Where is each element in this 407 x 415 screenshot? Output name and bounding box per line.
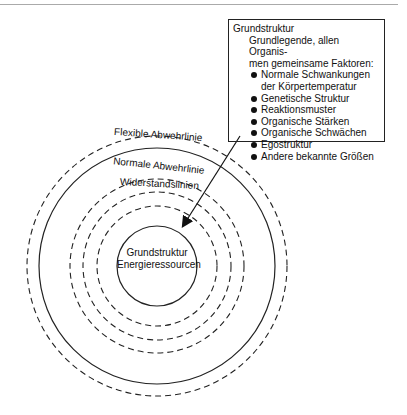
list-item: Andere bekannte Größen bbox=[251, 151, 380, 163]
list-item: Organische Schwächen bbox=[251, 127, 380, 139]
list-item: Reaktionsmuster bbox=[251, 104, 380, 116]
info-box-description: Grundlegende, allen Organis- men gemeins… bbox=[249, 35, 380, 70]
factor-list: Normale Schwankungen der Körpertemperatu… bbox=[233, 69, 380, 162]
info-box-title: Grundstruktur bbox=[233, 23, 380, 35]
list-item: Normale Schwankungen der Körpertemperatu… bbox=[251, 69, 380, 92]
info-box: Grundstruktur Grundlegende, allen Organi… bbox=[228, 19, 385, 142]
list-item: Genetische Struktur bbox=[251, 93, 380, 105]
list-item: Egostruktur bbox=[251, 139, 380, 151]
core-label: Grundstruktur Energieressourcen bbox=[117, 247, 197, 271]
list-item: Organische Stärken bbox=[251, 116, 380, 128]
